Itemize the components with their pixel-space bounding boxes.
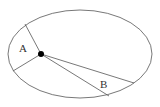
kepler-diagram: A B: [0, 0, 160, 107]
focus-point: [38, 51, 44, 57]
orbit-ellipse: [8, 10, 152, 98]
region-b-ray-lower: [41, 54, 109, 96]
region-a-ray-top: [25, 24, 41, 54]
region-b-label: B: [100, 78, 107, 90]
region-a-label: A: [19, 42, 27, 54]
region-a-ray-bottom: [13, 54, 41, 71]
region-b-ray-upper: [41, 54, 134, 83]
